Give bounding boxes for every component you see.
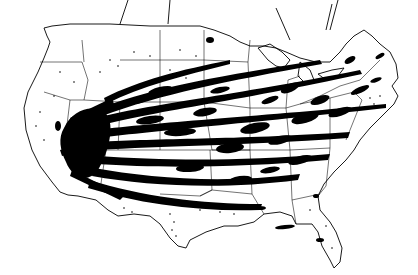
streak-tracks — [35, 37, 386, 249]
us-streak-map — [0, 0, 418, 275]
